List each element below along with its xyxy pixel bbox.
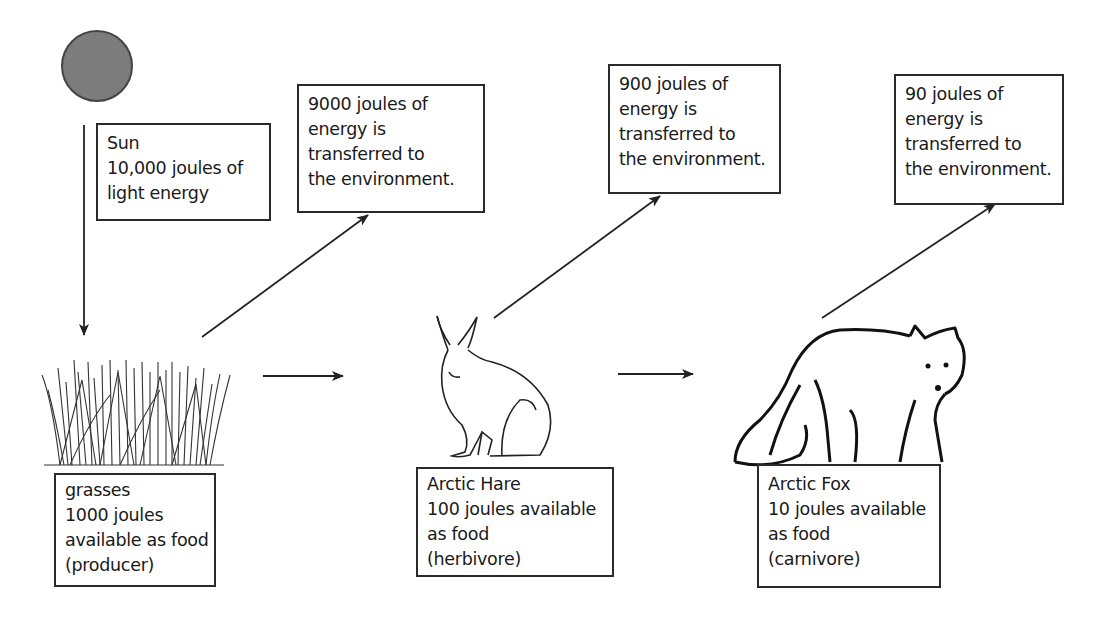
organism-line: 1000 joules: [65, 503, 206, 528]
loss-line: transferred to: [619, 122, 771, 147]
loss-line: transferred to: [905, 132, 1054, 157]
arrow-fox-to-environment: [822, 204, 995, 318]
organism-line: (producer): [65, 553, 206, 578]
grasses-box: grasses 1000 joules available as food (p…: [54, 473, 216, 587]
sun-label-line: Sun: [107, 131, 261, 156]
arctic-hare-icon: [437, 316, 551, 457]
loss-line: energy is: [308, 117, 475, 142]
environment-loss-box-3: 90 joules of energy is transferred to th…: [894, 74, 1064, 205]
arrow-hare-to-environment: [494, 196, 660, 318]
arctic-fox-box: Arctic Fox 10 joules available as food (…: [757, 464, 941, 588]
organism-line: as food: [768, 522, 931, 547]
organism-line: available as food: [65, 528, 206, 553]
loss-line: 9000 joules of: [308, 92, 475, 117]
sun-label-line: 10,000 joules of: [107, 156, 261, 181]
environment-loss-box-1: 9000 joules of energy is transferred to …: [297, 84, 485, 213]
loss-line: 900 joules of: [619, 72, 771, 97]
arctic-fox-icon: [735, 326, 964, 465]
sun-label-box: Sun 10,000 joules of light energy: [96, 123, 271, 221]
organism-line: 10 joules available: [768, 497, 931, 522]
organism-line: (carnivore): [768, 547, 931, 572]
organism-line: Arctic Fox: [768, 472, 931, 497]
organism-line: as food: [427, 522, 604, 547]
organism-line: grasses: [65, 478, 206, 503]
arrow-grasses-to-environment: [202, 215, 368, 337]
sun-label-line: light energy: [107, 181, 261, 206]
loss-line: the environment.: [619, 147, 771, 172]
grass-icon: [42, 360, 230, 465]
environment-loss-box-2: 900 joules of energy is transferred to t…: [608, 64, 781, 194]
organism-line: Arctic Hare: [427, 472, 604, 497]
loss-line: transferred to: [308, 142, 475, 167]
loss-line: energy is: [905, 107, 1054, 132]
loss-line: 90 joules of: [905, 82, 1054, 107]
loss-line: energy is: [619, 97, 771, 122]
organism-line: 100 joules available: [427, 497, 604, 522]
organism-line: (herbivore): [427, 547, 604, 572]
arctic-hare-box: Arctic Hare 100 joules available as food…: [416, 467, 614, 577]
loss-line: the environment.: [905, 157, 1054, 182]
loss-line: the environment.: [308, 167, 475, 192]
